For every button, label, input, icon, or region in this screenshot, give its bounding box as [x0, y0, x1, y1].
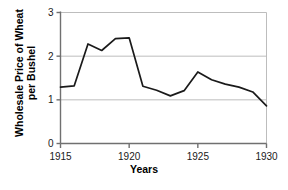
x-tick-label-1915: 1915: [49, 151, 72, 162]
chart-figure: Wholesale Price of Wheat per Bushel 0123…: [0, 0, 288, 190]
tick-marks: [57, 13, 267, 149]
y-tick-label-1: 1: [48, 94, 54, 105]
gridlines: [61, 13, 267, 144]
wheat-price-line: [61, 38, 267, 106]
y-tick-label-3: 3: [48, 7, 54, 18]
x-tick-label-1925: 1925: [187, 151, 210, 162]
x-tick-label-1930: 1930: [255, 151, 278, 162]
axis-spines: [61, 12, 267, 144]
x-tick-label-1920: 1920: [118, 151, 141, 162]
y-tick-label-0: 0: [48, 138, 54, 149]
data-series-line: [61, 38, 267, 106]
x-axis-title: Years: [0, 163, 288, 175]
line-chart-plot: 01231915192019251930: [0, 0, 288, 190]
y-tick-label-2: 2: [48, 51, 54, 62]
tick-labels: 01231915192019251930: [48, 7, 278, 161]
